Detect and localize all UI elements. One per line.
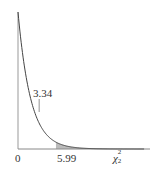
axis-subscript: 2 [118,158,122,165]
density-curve [18,12,144,149]
shaded-tail-region [56,142,145,149]
axis-superscript: 2 [118,149,122,156]
x-tick-label-0: 0 [15,153,21,164]
chi-squared-chart [0,0,155,178]
x-axis-label: χ22 [113,152,123,164]
marker-label: 3.34 [33,88,52,99]
x-tick-label-critical: 5.99 [57,153,76,164]
